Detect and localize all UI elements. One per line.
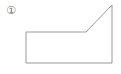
pentagon-shape <box>0 0 121 74</box>
